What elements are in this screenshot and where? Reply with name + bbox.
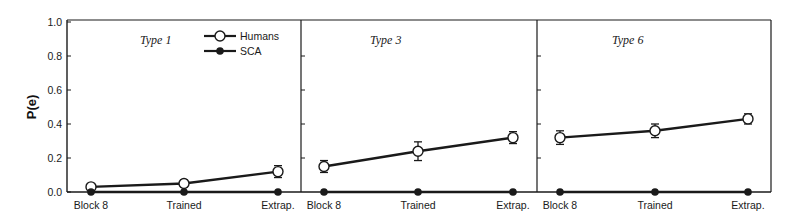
y-tick-label: 0.2 [47,152,62,164]
legend-item-sca: SCA [204,45,262,57]
legend-label: SCA [240,45,262,57]
x-tick-label: Trained [400,199,435,211]
x-tick-label: Block 8 [543,199,578,211]
x-tick-label: Extrap. [261,199,294,211]
x-tick-label: Extrap. [496,199,529,211]
humans-marker [179,179,189,189]
panels: Type 1Block 8TrainedExtrap.Type 3Block 8… [74,33,765,211]
panel-type-1: Type 1Block 8TrainedExtrap. [74,33,295,211]
x-tick-label: Trained [637,199,672,211]
x-tick-label: Extrap. [731,199,764,211]
plot-frame [67,20,771,192]
humans-marker [508,133,518,143]
sca-marker [87,188,95,196]
sca-marker [320,188,328,196]
y-axis: 0.00.20.40.60.81.0 [47,16,541,198]
panel-type-3: Type 3Block 8TrainedExtrap. [307,33,530,211]
humans-marker [555,133,565,143]
sca-marker [180,188,188,196]
x-tick-label: Trained [166,199,201,211]
y-tick-label: 1.0 [47,16,62,28]
sca-marker [744,188,752,196]
legend-item-humans: Humans [204,30,279,42]
humans-marker [413,146,423,156]
humans-marker [273,167,283,177]
humans-marker [650,126,660,136]
sca-marker [509,188,517,196]
chart-figure: 0.00.20.40.60.81.0 P(e) Type 1Block 8Tra… [0,0,795,223]
humans-marker [319,162,329,172]
legend: HumansSCA [204,30,279,57]
panel-type-6: Type 6Block 8TrainedExtrap. [543,33,765,211]
panel-title: Type 1 [140,33,171,47]
x-tick-label: Block 8 [74,199,109,211]
sca-marker [651,188,659,196]
legend-label: Humans [240,30,279,42]
humans-marker [743,114,753,124]
sca-marker [556,188,564,196]
y-tick-label: 0.4 [47,118,62,130]
y-tick-label: 0.6 [47,84,62,96]
y-tick-label: 0.8 [47,50,62,62]
panel-title: Type 3 [370,33,401,47]
filled-circle-icon [216,47,224,55]
x-tick-label: Block 8 [307,199,342,211]
open-circle-icon [215,31,225,41]
y-tick-label: 0.0 [47,186,62,198]
sca-marker [274,188,282,196]
sca-marker [414,188,422,196]
y-axis-label: P(e) [24,95,39,120]
panel-title: Type 6 [612,33,643,47]
